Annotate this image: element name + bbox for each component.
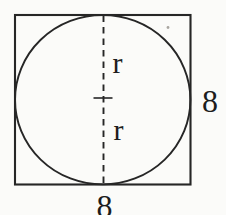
diagram-svg: r r 8 8	[0, 0, 226, 215]
scan-speck	[167, 26, 170, 29]
radius-label-upper: r	[113, 46, 123, 79]
square-side-label-right: 8	[202, 83, 218, 119]
radius-label-lower: r	[114, 113, 124, 146]
geometry-diagram: r r 8 8	[0, 0, 226, 215]
square-side-label-bottom: 8	[97, 188, 113, 215]
